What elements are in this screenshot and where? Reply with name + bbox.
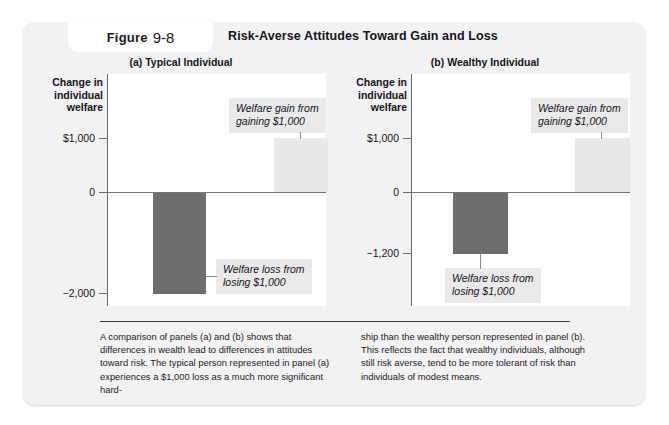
panel-b-bar-loss	[453, 193, 508, 254]
axis-title-line-1: Change in	[31, 76, 103, 89]
panel-b-axis-title: Change in individual welfare	[335, 76, 407, 114]
caption-column-right: ship than the wealthy person represented…	[361, 330, 600, 396]
panel-a-tick-neg2000	[99, 293, 108, 294]
panel-a-leader-gain	[300, 132, 301, 139]
panel-b-title: (b) Wealthy Individual	[335, 56, 635, 68]
axis-title-line-2: individual	[31, 89, 103, 102]
figure-title: Risk-Averse Attitudes Toward Gain and Lo…	[228, 29, 498, 43]
panel-a-callout-gain: Welfare gain from gaining $1,000	[229, 98, 326, 133]
panel-b-leader-loss	[480, 254, 481, 269]
panel-b-tick-0	[403, 192, 412, 193]
panel-a-tick-label-0: 0	[89, 186, 95, 198]
panel-typical-individual: (a) Typical Individual Change in individ…	[31, 52, 331, 314]
panel-a-tick-0	[99, 192, 108, 193]
panel-b-callout-loss-line-2: losing $1,000	[452, 285, 534, 298]
panel-b-tick-neg1200	[403, 253, 412, 254]
figure-number-tab: Figure 9-8	[68, 22, 213, 52]
panel-b-y-axis	[411, 74, 412, 306]
panel-b-callout-gain-line-1: Welfare gain from	[538, 102, 621, 115]
panel-b-callout-loss-line-1: Welfare loss from	[452, 272, 534, 285]
panel-b-bar-gain	[575, 138, 630, 192]
panel-a-callout-loss: Welfare loss from losing $1,000	[216, 259, 312, 294]
panel-a-tick-label-neg2000: −2,000	[63, 287, 95, 299]
caption-column-left: A comparison of panels (a) and (b) shows…	[100, 330, 339, 396]
panel-b-tick-label-neg1200: −1,200	[367, 247, 399, 259]
panel-b-leader-gain	[601, 132, 602, 139]
panels-container: (a) Typical Individual Change in individ…	[23, 52, 645, 314]
panel-a-tick-label-1000: $1,000	[63, 132, 95, 144]
panel-a-bar-loss	[153, 193, 206, 294]
axis-title-line-2: individual	[335, 89, 407, 102]
figure-card: Figure 9-8 Risk-Averse Attitudes Toward …	[23, 22, 645, 405]
figure-number: 9-8	[153, 29, 175, 46]
caption-divider	[100, 321, 570, 322]
panel-b-callout-gain-line-2: gaining $1,000	[538, 115, 621, 128]
panel-a-callout-gain-line-1: Welfare gain from	[236, 102, 319, 115]
panel-a-callout-gain-line-2: gaining $1,000	[236, 115, 319, 128]
panel-a-tick-1000	[99, 138, 108, 139]
axis-title-line-3: welfare	[31, 101, 103, 114]
panel-a-bar-gain	[274, 138, 328, 192]
panel-b-tick-label-0: 0	[393, 186, 399, 198]
axis-title-line-3: welfare	[335, 101, 407, 114]
figure-screenshot: Figure 9-8 Risk-Averse Attitudes Toward …	[0, 0, 669, 425]
panel-a-callout-loss-line-1: Welfare loss from	[223, 263, 305, 276]
panel-b-zero-line	[411, 192, 630, 193]
figure-caption: A comparison of panels (a) and (b) shows…	[100, 330, 600, 396]
panel-b-callout-gain: Welfare gain from gaining $1,000	[531, 98, 628, 133]
panel-a-callout-loss-line-2: losing $1,000	[223, 276, 305, 289]
axis-title-line-1: Change in	[335, 76, 407, 89]
figure-word: Figure	[107, 30, 148, 45]
panel-b-tick-1000	[403, 138, 412, 139]
panel-a-zero-line	[107, 192, 326, 193]
panel-b-callout-loss: Welfare loss from losing $1,000	[445, 268, 541, 303]
panel-wealthy-individual: (b) Wealthy Individual Change in individ…	[335, 52, 635, 314]
panel-b-tick-label-1000: $1,000	[367, 132, 399, 144]
panel-a-leader-loss	[206, 276, 217, 277]
panel-a-y-axis	[107, 74, 108, 306]
panel-a-title: (a) Typical Individual	[31, 56, 331, 68]
panel-a-axis-title: Change in individual welfare	[31, 76, 103, 114]
figure-header: Figure 9-8 Risk-Averse Attitudes Toward …	[23, 22, 645, 52]
